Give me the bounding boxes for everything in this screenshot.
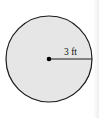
circle-diagram: 3 ft	[0, 0, 99, 118]
center-point	[47, 57, 52, 62]
diagram-canvas: 3 ft	[0, 0, 99, 118]
radius-label: 3 ft	[64, 47, 77, 57]
